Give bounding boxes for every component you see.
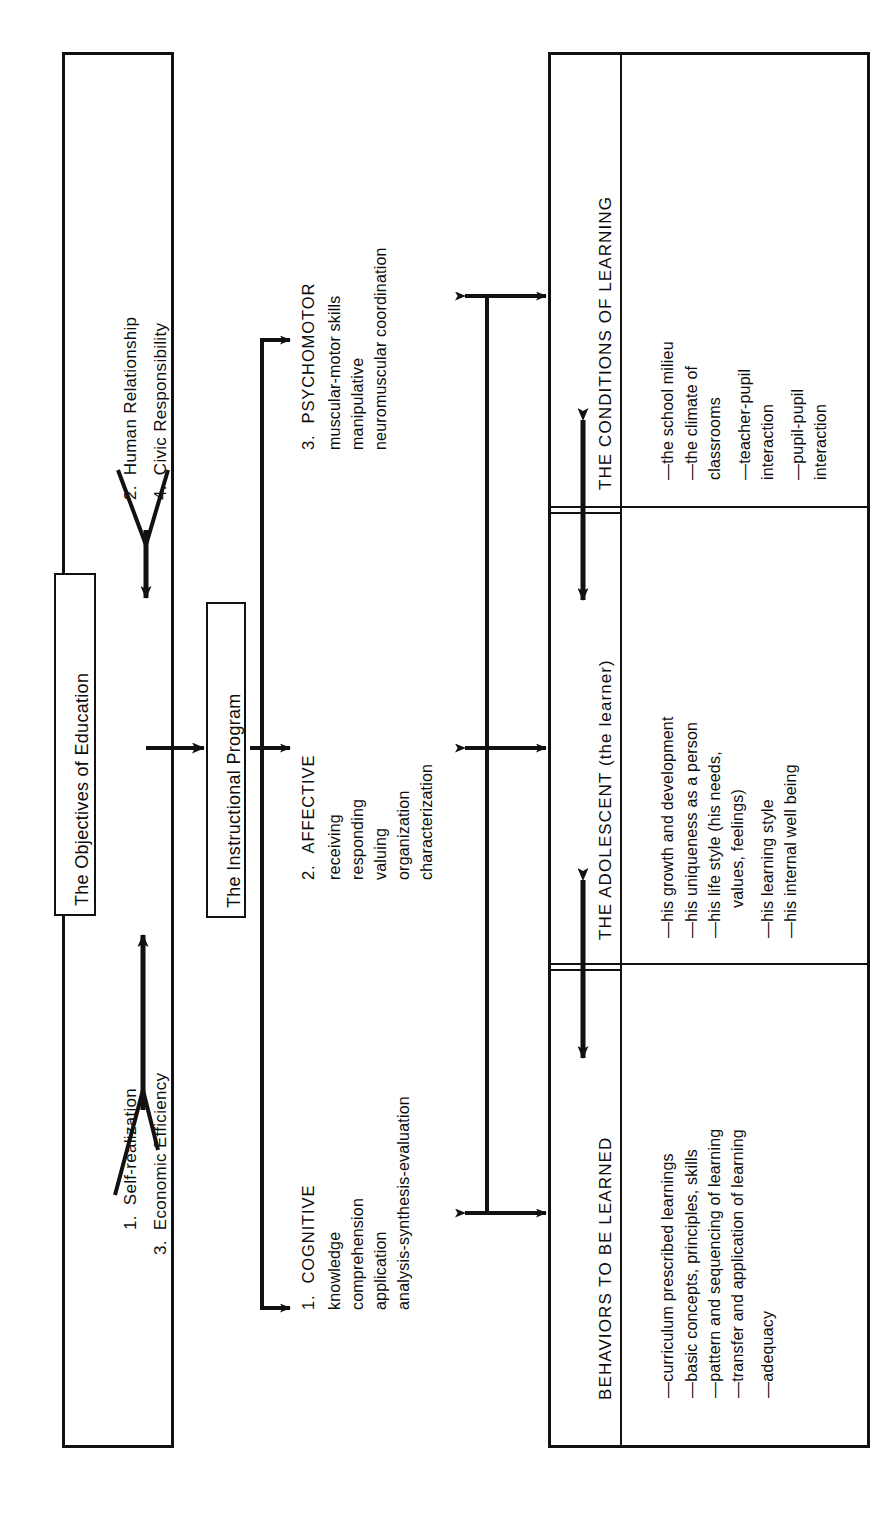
conditions-item-1b: classrooms [707,397,724,480]
right-title-column-divider [620,52,622,1448]
domain-affective-item-3: organization [396,790,413,880]
section-divider-lower-a [548,963,870,965]
section-divider-lower-b [548,969,622,971]
objectives-label-text: The Objectives of Education [73,673,92,906]
domain-2-name: AFFECTIVE [299,755,317,854]
objective-2-number: 2. [121,485,140,500]
adolescent-item-3: —his learning style [760,799,777,938]
domain-cognitive-item-1: comprehension [350,1198,367,1310]
domain-cognitive-heading: 1. COGNITIVE [300,1185,317,1310]
adolescent-item-0: —his growth and development [660,716,677,938]
domain-cognitive-item-2: application [373,1231,390,1310]
domain-affective-item-4: characterization [419,764,436,880]
behaviors-item-4: —adequacy [760,1311,777,1398]
domain-3-name: PSYCHOMOTOR [299,283,317,424]
conditions-item-2: —teacher-pupil [737,369,754,480]
domain-cognitive-item-0: knowledge [327,1232,344,1310]
objective-item-2: 2. Human Relationship [122,317,140,500]
adolescent-item-1: —his uniqueness as a person [684,722,701,938]
conditions-item-3: —pupil-pupil [790,389,807,480]
instructional-program-label-text: The Instructional Program [225,693,244,908]
program-branch-trunk [250,338,290,1310]
objective-3-text: Economic Efficiency [151,1073,170,1231]
objective-item-3: 3. Economic Efficiency [152,1073,170,1255]
behaviors-item-2: —pattern and sequencing of learning [707,1129,724,1398]
objective-1-text: Self-realization [121,1088,140,1205]
domain-psychomotor-item-0: muscular-motor skills [327,296,344,450]
domain-affective-heading: 2. AFFECTIVE [300,755,317,880]
objective-3-number: 3. [151,1240,170,1255]
domain-affective-item-0: receiving [327,814,344,880]
section-divider-upper-b [548,512,622,514]
domain-psychomotor-item-1: manipulative [350,358,367,450]
conditions-item-2b: interaction [760,404,777,480]
right-section-title-conditions: THE CONDITIONS OF LEARNING [597,196,615,490]
domain-affective-item-2: valuing [373,828,390,880]
conditions-item-0: —the school milieu [660,341,677,480]
domain-psychomotor-heading: 3. PSYCHOMOTOR [300,283,317,450]
domain-cognitive-item-3: analysis-synthesis-evaluation [396,1096,413,1310]
behaviors-item-0: —curriculum prescribed learnings [660,1153,677,1398]
conditions-item-3b: interaction [813,404,830,480]
right-section-title-adolescent: THE ADOLESCENT (the learner) [597,659,615,940]
domain-to-panel-spine [465,296,546,1215]
right-section-title-behaviors: BEHAVIORS TO BE LEARNED [597,1137,615,1400]
objective-item-4: 1.4. Civic Responsibility [152,323,170,500]
objective-4-number: 4. [151,485,170,500]
domain-1-name: COGNITIVE [299,1185,317,1284]
objective-4-text: Civic Responsibility [151,323,170,475]
adolescent-item-2b: values, feelings) [730,789,747,908]
adolescent-item-2: —his life style (his needs, [707,751,724,938]
domain-2-number: 2. [299,864,317,880]
objective-2-text: Human Relationship [121,317,140,475]
section-divider-upper-a [548,506,870,508]
behaviors-item-3: —transfer and application of learning [730,1129,747,1398]
domain-1-number: 1. [299,1294,317,1310]
conditions-item-1: —the climate of [684,366,701,480]
behaviors-item-1: —basic concepts, principles, skills [684,1149,701,1398]
objective-item-1: 1. Self-realization [122,1088,140,1230]
domain-3-number: 3. [299,434,317,450]
diagram-canvas: The Objectives of Education 2. Human Rel… [0,0,889,1520]
adolescent-item-4: —his internal well being [783,764,800,938]
domain-psychomotor-item-2: neuromuscular coordination [373,247,390,450]
domain-affective-item-1: responding [350,799,367,880]
objective-1-number: 1. [121,1215,140,1230]
